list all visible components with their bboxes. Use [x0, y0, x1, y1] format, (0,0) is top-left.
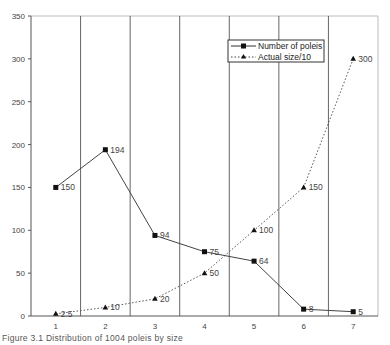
data-label: 300: [358, 54, 372, 64]
triangle-marker: [202, 270, 208, 275]
legend-label-actual-size: Actual size/10: [258, 52, 311, 62]
y-tick-label: 50: [16, 269, 25, 278]
square-marker: [351, 309, 356, 314]
y-tick-label: 150: [12, 183, 26, 192]
triangle-marker: [53, 311, 59, 316]
data-label: 50: [210, 268, 220, 278]
legend: Number of poleisActual size/10: [228, 40, 324, 62]
square-marker: [103, 147, 108, 152]
x-tick-label: 1: [54, 322, 59, 331]
data-label: 20: [160, 294, 170, 304]
figure-caption: Figure 3.1 Distribution of 1004 poleis b…: [2, 333, 183, 343]
data-label: 64: [259, 256, 269, 266]
data-label: 194: [110, 145, 124, 155]
triangle-marker: [350, 56, 356, 61]
triangle-marker: [103, 304, 109, 309]
legend-square-icon: [241, 44, 246, 49]
data-label: 94: [160, 230, 170, 240]
square-marker: [301, 307, 306, 312]
square-marker: [202, 249, 207, 254]
y-tick-label: 300: [12, 55, 26, 64]
x-tick-label: 7: [351, 322, 356, 331]
data-label: 5: [358, 307, 363, 317]
square-marker: [152, 233, 157, 238]
y-tick-label: 350: [12, 12, 26, 21]
triangle-marker: [301, 184, 307, 189]
y-tick-label: 200: [12, 141, 26, 150]
data-label: 150: [61, 182, 75, 192]
x-tick-label: 4: [202, 322, 207, 331]
square-marker: [252, 259, 257, 264]
y-tick-label: 100: [12, 226, 26, 235]
data-label: 75: [210, 247, 220, 257]
data-label: 100: [259, 225, 273, 235]
data-label: 8: [309, 304, 314, 314]
data-label: 10: [110, 302, 120, 312]
x-tick-label: 3: [153, 322, 158, 331]
line-chart: 05010015020025030035012345672.5102050100…: [0, 0, 390, 345]
y-tick-label: 0: [21, 312, 26, 321]
data-label: 150: [309, 182, 323, 192]
x-tick-label: 2: [103, 322, 108, 331]
data-label: 2.5: [61, 309, 73, 319]
y-tick-label: 250: [12, 98, 26, 107]
square-marker: [53, 185, 58, 190]
legend-label-poleis: Number of poleis: [258, 41, 322, 51]
x-tick-label: 5: [252, 322, 257, 331]
x-tick-label: 6: [301, 322, 306, 331]
